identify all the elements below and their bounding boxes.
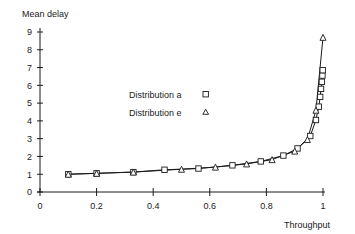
x-tick-label: 1	[320, 201, 325, 211]
square-marker	[281, 153, 286, 158]
x-tick-label: 0	[37, 201, 42, 211]
chart-plot-area: 012345678900.20.40.60.81 Mean delay Thro…	[0, 0, 355, 234]
square-marker	[320, 73, 325, 78]
chart-container: 012345678900.20.40.60.81 Mean delay Thro…	[0, 0, 355, 234]
y-tick-label: 6	[27, 81, 32, 91]
data-markers	[65, 34, 326, 177]
chart-legend: Distribution a Distribution e	[129, 90, 209, 118]
square-marker	[313, 117, 318, 122]
y-tick-label: 4	[27, 116, 32, 126]
x-tick-label: 0.6	[204, 201, 217, 211]
triangle-marker	[320, 34, 326, 40]
square-marker	[162, 167, 167, 172]
square-marker	[196, 166, 201, 171]
legend-item-label-e: Distribution e	[129, 108, 182, 118]
square-marker	[319, 79, 324, 84]
triangle-marker	[203, 109, 209, 114]
x-axis-label: Throughput	[284, 220, 331, 230]
y-tick-label: 9	[27, 27, 32, 37]
y-tick-label: 7	[27, 63, 32, 73]
x-tick-label: 0.2	[90, 201, 103, 211]
y-axis-label: Mean delay	[22, 9, 69, 19]
y-tick-label: 3	[27, 134, 32, 144]
x-tick-label: 0.4	[147, 201, 160, 211]
square-marker	[317, 94, 322, 99]
x-tick-label: 0.8	[260, 201, 273, 211]
square-marker	[318, 86, 323, 91]
axis-tick-labels: 012345678900.20.40.60.81	[27, 27, 326, 211]
y-tick-label: 1	[27, 170, 32, 180]
legend-item-label-a: Distribution a	[129, 90, 182, 100]
y-tick-label: 8	[27, 45, 32, 55]
square-marker	[203, 92, 208, 97]
square-marker	[320, 68, 325, 73]
y-tick-label: 5	[27, 98, 32, 108]
square-marker	[258, 159, 263, 164]
square-marker	[230, 163, 235, 168]
y-tick-label: 0	[27, 187, 32, 197]
y-tick-label: 2	[27, 152, 32, 162]
